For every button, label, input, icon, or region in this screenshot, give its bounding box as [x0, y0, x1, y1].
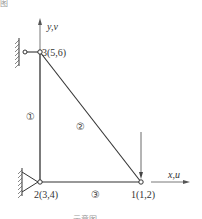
- node-2: [38, 180, 42, 184]
- arrow-right-icon: [183, 180, 190, 184]
- node-2-label: 2(3,4): [34, 189, 58, 201]
- node-1-label: 1(1,2): [131, 189, 155, 201]
- member-2: [40, 52, 141, 182]
- x-axis: [151, 180, 190, 184]
- x-axis-label: x,u: [167, 169, 180, 180]
- caption-fragment: … 示意图 …: [62, 214, 107, 219]
- y-axis-label: y,v: [46, 21, 58, 32]
- arrow-down-icon: [139, 172, 143, 179]
- node-1: [139, 180, 143, 184]
- member-3-label: ③: [91, 189, 100, 200]
- arrow-up-icon: [38, 18, 42, 25]
- member-2-label: ②: [76, 121, 85, 132]
- node-3-label: 3(5,6): [42, 47, 66, 59]
- header-fragment: 图: [0, 0, 8, 8]
- roller-support-node-3: [15, 38, 38, 68]
- member-1-label: ①: [26, 111, 35, 122]
- load-arrow-node-1: [139, 132, 143, 179]
- truss-diagram: 图 y,v x,u ① ② ③: [0, 0, 202, 219]
